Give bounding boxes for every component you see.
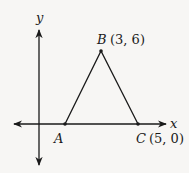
triangle-abc bbox=[65, 51, 138, 124]
y-axis-label: y bbox=[35, 10, 44, 25]
coordinate-plane: y x A B (3, 6) C (5, 0) bbox=[0, 0, 189, 173]
point-a bbox=[63, 122, 67, 126]
point-c bbox=[136, 122, 140, 126]
label-b-coords: (3, 6) bbox=[110, 32, 145, 47]
x-axis-label: x bbox=[170, 116, 178, 131]
label-c: C bbox=[136, 131, 146, 146]
label-b: B bbox=[96, 32, 107, 47]
label-a: A bbox=[53, 131, 63, 146]
label-c-coords: (5, 0) bbox=[149, 131, 184, 146]
point-b bbox=[99, 49, 103, 53]
